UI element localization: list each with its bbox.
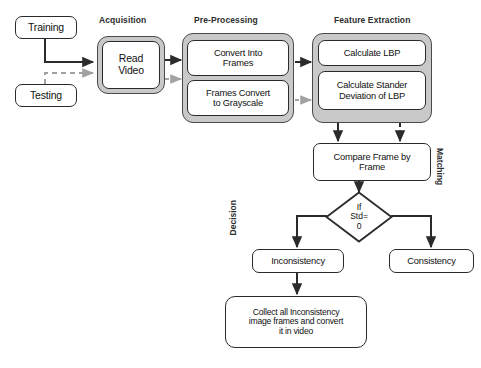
node-testing[interactable]: Testing xyxy=(15,84,77,107)
section-label-preprocessing: Pre-Processing xyxy=(194,15,258,25)
node-calculate-std-lbp-line2: Deviation of LBP xyxy=(339,91,405,101)
node-training-label: Training xyxy=(28,22,64,34)
node-inconsistency[interactable]: Inconsistency xyxy=(252,249,344,273)
node-compare-frame-line1: Compare Frame by xyxy=(334,152,411,162)
decision-line-3: 0 xyxy=(357,222,362,232)
node-consistency[interactable]: Consistency xyxy=(389,249,474,273)
section-label-acquisition: Acquisition xyxy=(99,15,146,25)
node-calculate-lbp[interactable]: Calculate LBP xyxy=(318,40,426,66)
node-calculate-std-lbp[interactable]: Calculate Stander Deviation of LBP xyxy=(318,71,426,110)
node-convert-into-frames-line1: Convert Into xyxy=(214,48,262,58)
flowchart-canvas: Acquisition Pre-Processing Feature Extra… xyxy=(0,0,481,368)
vertical-label-decision: Decision xyxy=(228,200,238,235)
node-calculate-lbp-label: Calculate LBP xyxy=(344,48,400,58)
node-training[interactable]: Training xyxy=(15,16,77,39)
node-frames-convert-grayscale[interactable]: Frames Convert to Grayscale xyxy=(187,80,289,116)
node-read-video-label-line2: Video xyxy=(118,65,144,77)
node-compare-frame-line2: Frame xyxy=(359,162,385,172)
node-collect-inconsistency-frames[interactable]: Collect all Inconsistency image frames a… xyxy=(225,296,367,348)
section-label-feature-extraction: Feature Extraction xyxy=(334,15,410,25)
vertical-label-matching: Matching xyxy=(435,148,445,185)
node-calculate-std-lbp-line1: Calculate Stander xyxy=(337,80,408,90)
node-consistency-label: Consistency xyxy=(407,256,455,266)
node-testing-label: Testing xyxy=(30,90,62,102)
node-compare-frame-by-frame[interactable]: Compare Frame by Frame xyxy=(313,143,431,181)
node-read-video[interactable]: Read Video xyxy=(102,41,160,89)
node-frames-convert-grayscale-line2: to Grayscale xyxy=(213,98,263,108)
node-convert-into-frames[interactable]: Convert Into Frames xyxy=(187,40,289,76)
node-inconsistency-label: Inconsistency xyxy=(271,256,325,266)
node-decision-diamond[interactable]: If Std= 0 xyxy=(325,191,393,243)
decision-diamond-text: If Std= 0 xyxy=(325,191,393,243)
node-frames-convert-grayscale-line1: Frames Convert xyxy=(206,88,270,98)
node-convert-into-frames-line2: Frames xyxy=(223,58,253,68)
node-collect-line3: it in video xyxy=(279,327,313,337)
